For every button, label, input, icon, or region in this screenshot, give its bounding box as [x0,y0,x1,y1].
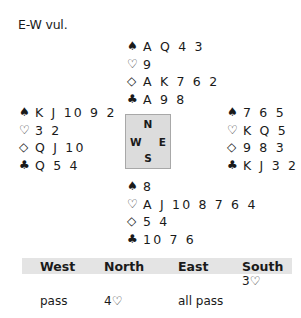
heart-icon: ♡ [227,122,243,140]
east-spades-row: ♠ 7 6 5 [227,104,298,122]
east-hand: ♠ 7 6 5 ♡ K Q 5 ◇ 9 8 3 ♣ K J 3 2 [227,104,298,174]
west-diamonds: Q J 10 [35,139,86,157]
bid-north: 4♡ [104,294,122,308]
spade-icon: ♠ [19,104,35,122]
header-south: South [242,259,283,274]
south-hand: ♠ 8 ♡ A J 10 8 7 6 4 ◇ 5 4 ♣ 10 7 6 [127,178,258,248]
north-hand: ♠ A Q 4 3 ♡ 9 ◇ A K 7 6 2 ♣ A 9 8 [127,38,219,108]
east-hearts-row: ♡ K Q 5 [227,122,298,140]
compass-north: N [144,119,153,130]
north-diamonds-row: ◇ A K 7 6 2 [127,73,219,91]
spade-icon: ♠ [127,38,143,56]
north-hearts: 9 [143,56,153,74]
west-hearts-row: ♡ 3 2 [19,122,117,140]
auction-row: pass 4♡ all pass [22,294,292,309]
south-diamonds-row: ◇ 5 4 [127,213,258,231]
west-diamonds-row: ◇ Q J 10 [19,139,117,157]
south-diamonds: 5 4 [143,213,169,231]
vulnerability-label: E-W vul. [18,17,67,32]
heart-icon: ♡ [19,122,35,140]
bid-west: pass [40,294,67,308]
header-north: North [104,259,144,274]
east-diamonds-row: ◇ 9 8 3 [227,139,298,157]
east-hearts: K Q 5 [243,122,288,140]
west-hand: ♠ K J 10 9 2 ♡ 3 2 ◇ Q J 10 ♣ Q 5 4 [19,104,117,174]
club-icon: ♣ [127,91,143,109]
diamond-icon: ◇ [19,139,35,157]
compass-box: N W E S [125,114,171,169]
west-clubs-row: ♣ Q 5 4 [19,157,117,175]
north-hearts-row: ♡ 9 [127,56,219,74]
east-diamonds: 9 8 3 [243,139,286,157]
west-clubs: Q 5 4 [35,157,80,175]
north-spades-row: ♠ A Q 4 3 [127,38,219,56]
east-spades: 7 6 5 [243,104,286,122]
compass-east: E [159,136,166,147]
header-west: West [40,259,75,274]
spade-icon: ♠ [227,104,243,122]
auction-table: West North East South 3♡ pass 4♡ all pas… [22,258,292,309]
header-east: East [178,259,208,274]
heart-icon: ♡ [127,196,143,214]
north-clubs-row: ♣ A 9 8 [127,91,219,109]
bid-east: all pass [178,294,223,308]
auction-header: West North East South [22,258,292,274]
heart-icon: ♡ [127,56,143,74]
west-spades-row: ♠ K J 10 9 2 [19,104,117,122]
club-icon: ♣ [227,157,243,175]
diamond-icon: ◇ [127,213,143,231]
diamond-icon: ◇ [227,139,243,157]
north-diamonds: A K 7 6 2 [143,73,219,91]
diamond-icon: ◇ [127,73,143,91]
compass-west: W [130,136,142,147]
compass-south: S [144,153,152,164]
spade-icon: ♠ [127,178,143,196]
south-hearts-row: ♡ A J 10 8 7 6 4 [127,196,258,214]
south-hearts: A J 10 8 7 6 4 [143,196,258,214]
south-clubs-row: ♣ 10 7 6 [127,231,258,249]
auction-row: 3♡ [22,274,292,289]
club-icon: ♣ [127,231,143,249]
bid-south: 3♡ [242,274,260,288]
north-spades: A Q 4 3 [143,38,205,56]
north-clubs: A 9 8 [143,91,186,109]
south-spades-row: ♠ 8 [127,178,258,196]
east-clubs: K J 3 2 [243,157,298,175]
west-hearts: 3 2 [35,122,61,140]
club-icon: ♣ [19,157,35,175]
east-clubs-row: ♣ K J 3 2 [227,157,298,175]
west-spades: K J 10 9 2 [35,104,117,122]
south-clubs: 10 7 6 [143,231,196,249]
south-spades: 8 [143,178,153,196]
